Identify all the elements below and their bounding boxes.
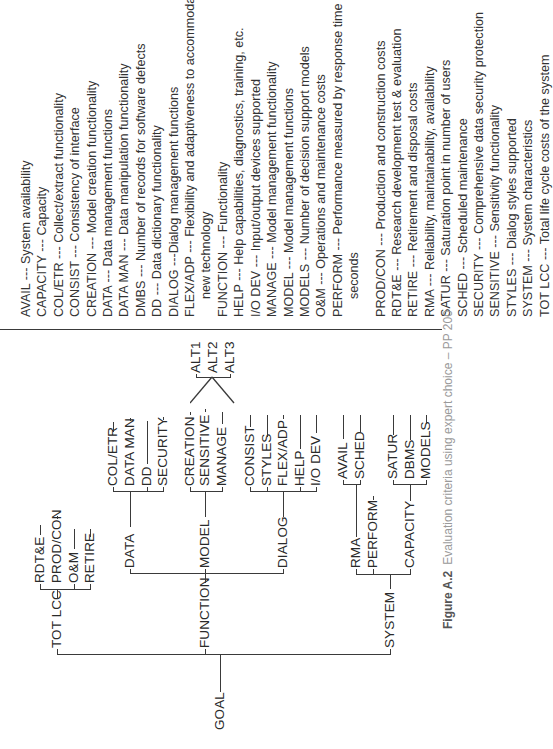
tick: [190, 412, 191, 415]
tick: [356, 485, 357, 537]
node-rma: RMA: [349, 538, 363, 568]
goal-bracket: [57, 654, 390, 655]
tick: [130, 418, 131, 421]
legend-row: CREATION --- Model creation functionalit…: [84, 2, 100, 317]
legend-row: SATUR --- Saturation point in number of …: [438, 2, 454, 317]
legend-row: STYLES --- Dialog styles supported: [504, 2, 520, 317]
legend-row-continuation: seconds: [346, 2, 362, 317]
tick: [57, 590, 58, 599]
tick: [163, 417, 164, 420]
tick: [205, 409, 206, 412]
tick: [147, 421, 148, 464]
alt-1: ALT1: [189, 341, 203, 373]
node-help: HELP: [293, 450, 307, 486]
legend-row: AVAIL --- System availability: [18, 2, 34, 317]
node-system: SYSTEM: [383, 592, 397, 648]
tick: [74, 584, 75, 590]
tot-lcc-bracket: [40, 589, 90, 590]
tick: [426, 415, 427, 424]
node-sensitive: SENSITIVE: [198, 415, 212, 486]
legend-row: DATA --- Data management functions: [100, 2, 116, 317]
legend-row: O&M --- Operations and maintenance costs: [313, 2, 329, 317]
node-dd: DD: [140, 466, 154, 486]
tick: [373, 569, 374, 575]
node-models: MODELS: [419, 421, 433, 479]
legend-row: FLEX/ADP --- Flexibility and adaptivenes…: [182, 2, 198, 317]
legend-row: SCHED --- Scheduled maintenance: [455, 2, 471, 317]
tick: [130, 492, 131, 527]
tick: [222, 487, 223, 492]
tick: [283, 492, 284, 517]
legend-row: COL/ETR --- Collect/extract functionalit…: [51, 2, 67, 317]
tick: [410, 569, 411, 575]
tick: [40, 584, 41, 590]
goal-node: GOAL: [213, 692, 227, 730]
node-creation: CREATION: [183, 416, 197, 486]
tick: [390, 649, 391, 655]
legend-row: CAPACITY --- Capacity: [34, 2, 50, 317]
node-dialog: DIALOG: [276, 516, 290, 568]
legend-separator: [0, 329, 442, 330]
tick: [205, 649, 206, 655]
tick: [393, 480, 394, 485]
data-bracket: [113, 491, 164, 492]
model-bracket: [190, 491, 223, 492]
tick: [283, 569, 284, 574]
legend-row: RMA --- Reliability, maintainability, av…: [422, 2, 438, 317]
node-model: MODEL: [198, 519, 212, 568]
node-manage: MANAGE: [215, 427, 229, 486]
alt-2: ALT2: [206, 341, 220, 373]
tick: [250, 487, 251, 492]
tick: [74, 529, 75, 549]
legend-row: MANAGE --- Model management functionalit…: [264, 2, 280, 317]
legend-row-continuation: new technology: [198, 2, 214, 317]
node-consist: CONSIST: [243, 425, 257, 486]
legend-row: PERFORM --- Performance measured by resp…: [330, 2, 346, 317]
alternatives-bracket: [196, 377, 231, 378]
tick: [90, 529, 91, 537]
node-dbms: DBMS: [403, 440, 417, 479]
node-function: FUNCTION: [198, 577, 212, 648]
tick: [57, 649, 58, 655]
legend-row: DIALOG ---Dialog management functions: [166, 2, 182, 317]
legend-row: TOT LCC --- Total life cycle costs of th…: [537, 2, 553, 317]
legend-row: I/O DEV --- Input/output devices support…: [248, 2, 264, 317]
capacity-bracket: [393, 484, 427, 485]
tick: [267, 487, 268, 492]
legend-row: CONSIST --- Consistency of interface: [67, 2, 83, 317]
tick: [147, 487, 148, 492]
tick: [426, 480, 427, 485]
tick: [230, 374, 231, 378]
tick: [373, 496, 374, 500]
tick: [300, 415, 301, 449]
system-bracket: [356, 574, 411, 575]
legend-row: SYSTEM --- System characteristics: [520, 2, 536, 317]
tick: [190, 487, 191, 492]
tick: [222, 412, 223, 424]
tick: [316, 487, 317, 492]
node-satur: SATUR: [386, 434, 400, 479]
node-perform: PERFORM: [366, 500, 380, 568]
node-styles: STYLES: [260, 434, 274, 486]
tick: [205, 492, 206, 517]
function-bracket: [130, 573, 283, 574]
goal-connector: [220, 655, 221, 692]
tick: [130, 569, 131, 574]
legend-row: RDT&E --- Research development test & ev…: [389, 2, 405, 317]
node-rdte: RDT&E: [33, 537, 47, 583]
tick: [356, 569, 357, 575]
tick: [283, 415, 284, 419]
legend-row: MODELS --- Number of decision support mo…: [297, 2, 313, 317]
node-security: SECURITY: [156, 417, 170, 486]
legend-row: DD --- Data dictionary functionality: [149, 2, 165, 317]
tick: [360, 415, 361, 433]
node-data-man: DATA MAN: [123, 418, 137, 486]
dialog-bracket: [250, 491, 317, 492]
node-flex-adp: FLEX/ADP: [276, 420, 290, 486]
legend-row: HELP --- Help capabilities, diagnostics,…: [231, 2, 247, 317]
tick: [113, 487, 114, 492]
tick: [300, 487, 301, 492]
legend-row: DATA MAN --- Data manipulation functiona…: [116, 2, 132, 317]
tick: [410, 485, 411, 501]
